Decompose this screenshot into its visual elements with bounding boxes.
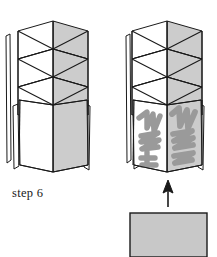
left-folded-cylinder <box>6 21 90 172</box>
instruction-diagram <box>0 0 217 257</box>
step-caption: step 6 <box>12 186 43 201</box>
arrow-head <box>163 180 173 193</box>
insert-sheet <box>130 213 207 257</box>
right-folded-cylinder <box>126 21 204 172</box>
figure-page: step 6 <box>0 0 217 257</box>
insert-arrow <box>163 180 173 207</box>
